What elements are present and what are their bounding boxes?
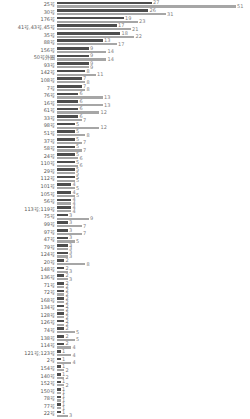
category-label: 71号 — [0, 283, 57, 288]
bar-series2 — [57, 43, 117, 45]
bar-line: 5 — [57, 123, 250, 126]
bar-group: 28 — [57, 259, 250, 265]
chart-row: 25号2751 — [0, 1, 250, 8]
bar-series1 — [57, 411, 61, 414]
category-label: 93号 — [0, 63, 57, 68]
chart-row: 128号22 — [0, 312, 250, 319]
bar-series2 — [57, 263, 85, 265]
chart-row: 114号24 — [0, 342, 250, 349]
bar-series1 — [57, 282, 64, 285]
category-label: 61号 — [0, 108, 57, 113]
bar-line: 3 — [57, 248, 250, 251]
bar-line: 2 — [57, 327, 250, 330]
category-label: 156号 — [0, 48, 57, 53]
chart-row: 150号11 — [0, 387, 250, 394]
bar-line: 5 — [57, 179, 250, 182]
bar-series1 — [57, 39, 103, 42]
chart-row: 78号11 — [0, 395, 250, 402]
bar-group: 24 — [57, 343, 250, 349]
category-label: 134号 — [0, 305, 57, 310]
chart-row: 56号44 — [0, 198, 250, 205]
category-label: 108号 — [0, 78, 57, 83]
bar-series1 — [57, 267, 64, 270]
bar-group: 13 — [57, 411, 250, 417]
bar-series1 — [57, 365, 61, 368]
bar-series2 — [57, 218, 89, 220]
bar-line: 31 — [57, 13, 250, 16]
category-label: 136号 — [0, 275, 57, 280]
category-label: 128号 — [0, 313, 57, 318]
bar-series1 — [57, 191, 71, 194]
bar-series1 — [57, 93, 78, 96]
bar-line: 4 — [57, 191, 250, 194]
chart-row: 134号22 — [0, 304, 250, 311]
bar-line: 9 — [57, 55, 250, 58]
bar-series1 — [57, 221, 68, 224]
bar-series1 — [57, 343, 64, 346]
bar-series2 — [57, 202, 71, 204]
bar-line: 4 — [57, 183, 250, 186]
chart-row: 176号1923 — [0, 16, 250, 23]
bar-series1 — [57, 305, 64, 308]
bar-line: 3 — [57, 214, 250, 217]
bar-line: 14 — [57, 51, 250, 54]
bar-series2 — [57, 316, 64, 318]
category-label: 110号 — [0, 161, 57, 166]
bar-series2 — [57, 51, 106, 53]
bar-series2 — [57, 36, 134, 38]
category-label: 16号 — [0, 101, 57, 106]
category-label: 51号 — [0, 131, 57, 136]
bar-series1 — [57, 77, 82, 80]
bar-series1 — [57, 312, 64, 315]
bar-line: 9 — [57, 62, 250, 65]
bar-group: 22 — [57, 290, 250, 296]
bar-group: 45 — [57, 183, 250, 189]
category-label: 20号 — [0, 260, 57, 265]
bar-line: 5 — [57, 195, 250, 198]
chart-row: 7号78 — [0, 84, 250, 91]
chart-row: 138号25 — [0, 334, 250, 341]
chart-row: 140号12 — [0, 372, 250, 379]
bar-line: 6 — [57, 157, 250, 160]
bar-group: 914 — [57, 55, 250, 61]
bar-group: 35 — [57, 237, 250, 243]
bar-group: 1822 — [57, 32, 250, 38]
bar-group: 22 — [57, 297, 250, 303]
category-label: 114号 — [0, 343, 57, 348]
category-label: 98号 — [0, 123, 57, 128]
bar-group: 44 — [57, 199, 250, 205]
chart-row: 112号55 — [0, 175, 250, 182]
bar-line: 5 — [57, 240, 250, 243]
bar-group: 11 — [57, 388, 250, 394]
chart-row: 33号67 — [0, 115, 250, 122]
bar-line: 7 — [57, 225, 250, 228]
bar-series1 — [57, 47, 89, 50]
bar-line: 13 — [57, 39, 250, 42]
bar-group: 914 — [57, 47, 250, 53]
bar-line: 8 — [57, 70, 250, 73]
bar-group: 14 — [57, 350, 250, 356]
chart-row: 97号37 — [0, 228, 250, 235]
bar-series1 — [57, 9, 148, 12]
bar-series2 — [57, 81, 85, 83]
bar-line: 13 — [57, 96, 250, 99]
bar-group: 613 — [57, 93, 250, 99]
bar-group: 12 — [57, 373, 250, 379]
bar-group: 22 — [57, 282, 250, 288]
bar-group: 44 — [57, 206, 250, 212]
category-label: 24号 — [0, 154, 57, 159]
category-label: 121号;123号 — [0, 351, 57, 356]
chart-row: 136号23 — [0, 274, 250, 281]
bar-group: 23 — [57, 274, 250, 280]
bar-line: 2 — [57, 335, 250, 338]
chart-row: 156号914 — [0, 46, 250, 53]
bar-line: 1 — [57, 381, 250, 384]
bar-series2 — [57, 309, 64, 311]
bar-line: 7 — [57, 142, 250, 145]
category-label: 47号 — [0, 237, 57, 242]
category-label: 101号 — [0, 184, 57, 189]
bar-group: 37 — [57, 229, 250, 235]
chart-row: 108号78 — [0, 77, 250, 84]
bar-line: 17 — [57, 24, 250, 27]
bar-group: 2631 — [57, 9, 250, 15]
